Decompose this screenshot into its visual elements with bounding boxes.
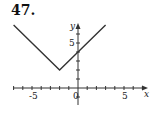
graph-line <box>14 25 106 70</box>
x-axis-label: x <box>144 89 149 99</box>
x-tick-label-neg5: -5 <box>29 91 38 101</box>
x-tick-label-0: 0 <box>73 91 79 101</box>
chart: -5 0 5 5 x y <box>0 0 159 116</box>
y-axis-label: y <box>69 21 76 31</box>
y-tick-label-5: 5 <box>69 38 75 48</box>
y-axis-arrow-icon <box>76 23 81 29</box>
x-tick-label-5: 5 <box>122 91 128 101</box>
